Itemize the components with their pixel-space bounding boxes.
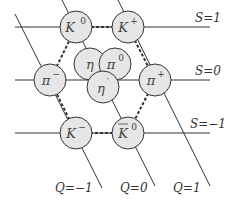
svg-text:−: −	[52, 69, 60, 79]
meson-nonet-diagram: K 0 K + π − η π 0 η ′ π + K − K 0	[0, 0, 243, 204]
svg-text:′: ′	[107, 77, 109, 87]
node-piplus: π +	[139, 64, 171, 96]
label-sm1: S=−1	[190, 117, 226, 131]
svg-text:π: π	[106, 57, 116, 72]
svg-text:−: −	[78, 122, 86, 132]
label-qm1: Q=−1	[55, 181, 93, 195]
diagram-canvas: K 0 K + π − η π 0 η ′ π + K − K 0	[0, 0, 243, 204]
svg-text:K: K	[65, 126, 77, 141]
node-etaprime: η ′	[87, 71, 119, 103]
svg-text:K: K	[64, 20, 76, 35]
node-K0: K 0	[60, 11, 92, 43]
svg-text:+: +	[157, 69, 165, 79]
label-q0: Q=0	[120, 181, 148, 195]
svg-text:0: 0	[118, 53, 124, 63]
svg-text:η: η	[97, 81, 105, 96]
charge-line-qm1	[15, 14, 102, 188]
node-K0bar: K 0	[112, 117, 144, 149]
node-piminus: π −	[34, 64, 66, 96]
svg-text:0: 0	[80, 16, 86, 26]
label-q1: Q=1	[173, 181, 201, 195]
svg-text:π: π	[146, 73, 156, 88]
svg-text:K: K	[117, 20, 129, 35]
svg-text:+: +	[130, 16, 138, 26]
label-s0: S=0	[195, 64, 221, 78]
node-Kplus: K +	[112, 11, 144, 43]
svg-text:π: π	[41, 73, 51, 88]
label-s1: S=1	[195, 11, 221, 25]
svg-text:0: 0	[131, 122, 137, 132]
svg-text:K: K	[117, 126, 129, 141]
svg-text:η: η	[86, 57, 94, 72]
node-Kminus: K −	[60, 117, 92, 149]
